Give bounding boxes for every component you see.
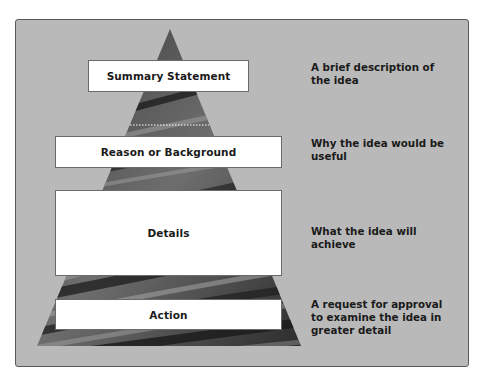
level-description-reason: Why the idea would be useful xyxy=(311,137,449,163)
level-box-details: Details xyxy=(55,190,282,276)
level-box-reason: Reason or Background xyxy=(55,136,282,168)
level-box-action: Action xyxy=(55,299,282,330)
level-description-action: A request for approval to examine the id… xyxy=(311,298,446,337)
level-label: Action xyxy=(149,309,187,321)
level-label: Details xyxy=(147,227,189,239)
level-label: Reason or Background xyxy=(101,146,237,158)
level-box-summary: Summary Statement xyxy=(88,60,249,92)
level-label: Summary Statement xyxy=(107,70,231,82)
level-description-details: What the idea will achieve xyxy=(311,225,426,251)
level-description-summary: A brief description of the idea xyxy=(311,61,446,87)
